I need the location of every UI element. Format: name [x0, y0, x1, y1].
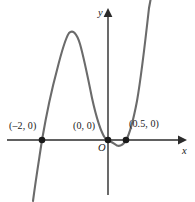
root-label-origin: (0, 0)	[73, 121, 95, 131]
root-point-half	[123, 137, 130, 144]
x-axis-label: x	[182, 146, 187, 157]
root-label-half: (0.5, 0)	[129, 119, 159, 129]
y-axis-arrowhead	[104, 8, 113, 17]
y-axis-label: y	[98, 8, 103, 19]
plot-canvas	[0, 0, 195, 202]
origin-label: O	[98, 143, 106, 154]
root-label-neg2: (–2, 0)	[9, 121, 36, 131]
root-point-neg2	[39, 137, 46, 144]
x-axis	[7, 136, 187, 145]
y-axis	[104, 8, 113, 195]
x-axis-arrowhead	[178, 136, 187, 145]
graph-figure: (–2, 0) (0, 0) (0.5, 0) O y x	[0, 0, 195, 202]
polynomial-curve	[33, 0, 151, 201]
